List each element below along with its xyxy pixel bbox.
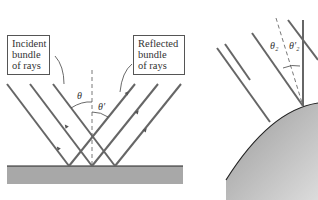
incident-line-1: Incident bbox=[12, 38, 45, 49]
reflection-diagram bbox=[0, 0, 318, 200]
incident-line-3: of rays bbox=[12, 60, 45, 71]
angle-theta-prime: θ′ bbox=[98, 101, 105, 112]
reflected-rays bbox=[69, 84, 181, 166]
incident-line-2: bundle bbox=[12, 49, 45, 60]
curved-surface bbox=[226, 103, 318, 200]
reflected-line-1: Reflected bbox=[138, 38, 180, 49]
flat-surface-panel bbox=[7, 56, 183, 184]
normal-line-2 bbox=[276, 18, 303, 106]
angle-theta-2: θ₂ bbox=[270, 40, 278, 51]
reflected-line-2: bundle bbox=[138, 49, 180, 60]
angle-theta-2-prime: θ′₂ bbox=[289, 40, 300, 51]
incident-label-box: Incident bundle of rays bbox=[7, 35, 50, 75]
curved-surface-panel bbox=[217, 18, 318, 200]
reflected-line-3: of rays bbox=[138, 60, 180, 71]
reflected-label-box: Reflected bundle of rays bbox=[133, 35, 185, 75]
flat-surface bbox=[7, 166, 183, 184]
angle-theta: θ bbox=[77, 90, 82, 101]
incident-rays bbox=[7, 84, 115, 166]
